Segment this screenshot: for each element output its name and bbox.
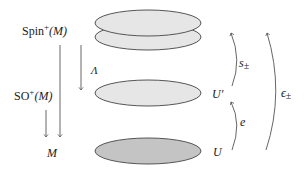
arrow-s-pm [231, 33, 237, 86]
arrow-e [231, 102, 237, 150]
bundle-diagram: Spin+(M) SO+(M) M Λ U′ U s± e ϵ± [0, 0, 308, 172]
label-lambda: Λ [90, 64, 98, 76]
spin-sheet-upper [95, 10, 201, 36]
label-u: U [213, 145, 223, 159]
label-m: M [46, 146, 58, 160]
spin-sheets [95, 10, 201, 50]
label-so-plus-m: SO+(M) [14, 87, 52, 103]
label-s-pm: s± [239, 56, 250, 71]
label-u-prime: U′ [212, 87, 224, 101]
arrow-eps-pm [266, 33, 276, 150]
so-frame-sheet [95, 80, 201, 106]
label-spin-plus-m: Spin+(M) [22, 22, 67, 38]
label-e: e [240, 115, 246, 129]
label-epsilon-pm: ϵ± [281, 86, 292, 101]
base-open-set-sheet [95, 138, 201, 164]
